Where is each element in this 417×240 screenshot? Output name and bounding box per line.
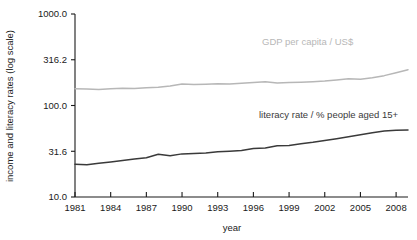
series-line xyxy=(75,130,408,165)
x-tick-label: 1984 xyxy=(100,202,121,213)
y-tick-label: 1000.0 xyxy=(38,8,67,19)
x-tick-label: 1999 xyxy=(279,202,300,213)
x-tick-label: 1981 xyxy=(64,202,85,213)
x-axis-ticks: 1981198419871990199319961999200220052008 xyxy=(64,192,406,213)
series-annotations: GDP per capita / US$literacy rate / % pe… xyxy=(259,36,399,120)
x-tick-label: 2002 xyxy=(314,202,335,213)
x-tick-label: 2005 xyxy=(350,202,371,213)
y-tick-label: 31.6 xyxy=(49,146,68,157)
y-tick-label: 10.0 xyxy=(49,191,68,202)
line-chart: 1000.0316.2100.031.610.0 198119841987199… xyxy=(0,0,417,240)
chart-container: 1000.0316.2100.031.610.0 198119841987199… xyxy=(0,0,417,240)
series-annotation-label: literacy rate / % people aged 15+ xyxy=(259,109,399,120)
y-axis-ticks: 1000.0316.2100.031.610.0 xyxy=(38,8,75,202)
y-tick-label: 316.2 xyxy=(43,54,67,65)
series-line xyxy=(75,70,408,90)
x-tick-label: 1990 xyxy=(171,202,192,213)
x-axis-group: 1981198419871990199319961999200220052008 xyxy=(64,192,408,213)
series-annotation-label: GDP per capita / US$ xyxy=(262,36,354,47)
x-tick-label: 1987 xyxy=(136,202,157,213)
y-axis-group: 1000.0316.2100.031.610.0 xyxy=(38,8,75,202)
y-tick-label: 100.0 xyxy=(43,100,67,111)
x-tick-label: 1993 xyxy=(207,202,228,213)
x-tick-label: 1996 xyxy=(243,202,264,213)
x-tick-label: 2008 xyxy=(386,202,407,213)
x-axis-title: year xyxy=(223,222,241,233)
y-axis-title: income and literacy rates (log scale) xyxy=(4,30,15,182)
